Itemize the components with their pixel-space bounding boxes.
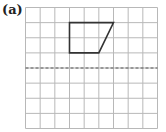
grid-diagram [0,0,166,132]
